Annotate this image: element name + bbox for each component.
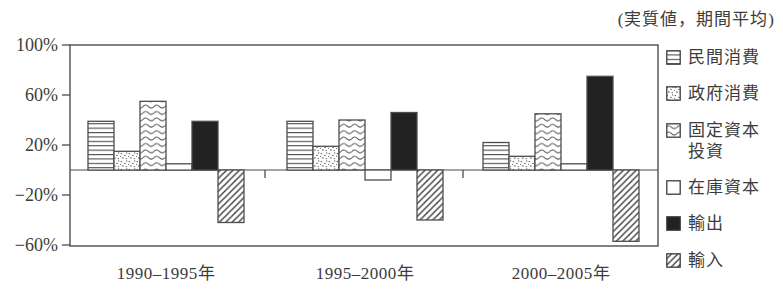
chart-legend: 民間消費政府消費固定資本 投資在庫資本輸出輸入 [666,47,781,271]
legend-item-private-consumption: 民間消費 [666,47,781,68]
legend-swatch-inventory-capital-icon [666,180,681,195]
y-tick-label: −20% [15,185,58,205]
bar-private-consumption-1 [287,121,313,170]
bar-private-consumption-0 [88,121,114,170]
legend-swatch-government-consumption-icon [666,86,681,101]
y-tick-label: 60% [25,85,58,105]
legend-label: 在庫資本 [688,177,760,198]
legend-label: 輸入 [688,250,724,271]
legend-item-inventory-capital: 在庫資本 [666,177,781,198]
bar-fixed-capital-investment-2 [535,114,561,170]
bar-fixed-capital-investment-1 [339,120,365,170]
legend-label: 固定資本 投資 [688,120,760,163]
bar-inventory-capital-1 [365,170,391,180]
bar-inventory-capital-2 [561,164,587,170]
y-tick-label: −60% [15,235,58,255]
legend-label: 民間消費 [688,47,760,68]
bar-exports-0 [192,121,218,170]
bar-government-consumption-2 [509,156,535,170]
bar-private-consumption-2 [483,143,509,171]
bar-imports-1 [417,170,443,220]
legend-item-imports: 輸入 [666,250,781,271]
bar-imports-2 [613,170,639,241]
bar-exports-2 [587,76,613,170]
bar-inventory-capital-0 [166,164,192,170]
bar-government-consumption-0 [114,151,140,170]
bar-imports-0 [218,170,244,223]
legend-item-exports: 輸出 [666,213,781,234]
x-category-label: 1995–2000年 [316,264,415,283]
bar-fixed-capital-investment-0 [140,101,166,170]
legend-item-fixed-capital-investment: 固定資本 投資 [666,120,781,163]
legend-swatch-private-consumption-icon [666,50,681,65]
figure: (実質値，期間平均) 100%60%20%−20%−60%1990–1995年1… [0,0,783,305]
x-category-label: 1990–1995年 [117,264,216,283]
legend-swatch-imports-icon [666,253,681,268]
y-tick-label: 20% [25,135,58,155]
x-category-label: 2000–2005年 [512,264,611,283]
bar-government-consumption-1 [313,146,339,170]
legend-item-government-consumption: 政府消費 [666,83,781,104]
bar-exports-1 [391,113,417,171]
legend-swatch-fixed-capital-investment-icon [666,123,681,138]
legend-swatch-exports-icon [666,216,681,231]
legend-label: 政府消費 [688,83,760,104]
legend-label: 輸出 [688,213,724,234]
y-tick-label: 100% [16,35,58,55]
